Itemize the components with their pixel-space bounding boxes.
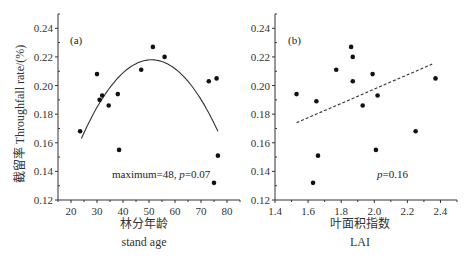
data-point [139,68,144,73]
data-point [151,45,156,50]
x-tick-label: 2.2 [400,205,414,217]
panel-a-fit-curve [81,60,218,139]
y-tick-label: 0.24 [34,22,54,34]
y-tick-label: 0.12 [34,194,53,206]
y-tick-label: 0.16 [34,137,54,149]
panel-a-ylabel: 截留率 Throughfall rate/(%) [12,45,27,184]
data-point [97,98,102,103]
panel-a-xlabel-cn: 林分年龄 [120,217,168,231]
x-tick-label: 1.6 [301,205,315,217]
panel-b-axes: 0.120.140.160.180.200.220.241.41.61.82.0… [251,14,457,217]
x-tick-label: 30 [92,205,104,217]
figure-throughfall-rate: 0.120.140.160.180.200.220.24203040506070… [0,0,472,261]
panel-b-xlabel-en: LAI [350,235,370,249]
panel-b-lai: 0.120.140.160.180.200.220.241.41.61.82.0… [251,14,457,249]
data-point [116,92,121,97]
y-tick-label: 0.20 [34,80,54,92]
panel-a-stand-age: 0.120.140.160.180.200.220.24203040506070… [12,14,240,249]
data-point [100,93,105,98]
y-tick-label: 0.22 [34,51,53,63]
x-tick-label: 60 [170,205,182,217]
panel-a-points [78,45,220,186]
data-point [413,129,418,134]
x-tick-label: 50 [144,205,156,217]
panel-b-annotation: p=0.16 [376,168,408,180]
y-tick-label: 0.20 [251,80,271,92]
x-tick-label: 2.4 [434,205,448,217]
data-point [311,181,316,186]
data-point [162,55,167,60]
data-point [95,72,100,77]
data-point [78,129,83,134]
data-point [349,45,354,50]
y-tick-label: 0.12 [251,194,270,206]
data-point [374,148,379,153]
data-point [350,55,355,60]
data-point [214,76,219,81]
data-point [207,79,212,84]
y-tick-label: 0.18 [251,108,271,120]
data-point [360,103,365,108]
data-point [316,153,321,158]
panel-b-xlabel-cn: 叶面积指数 [330,216,390,231]
y-tick-label: 0.22 [251,51,270,63]
data-point [433,76,438,81]
data-point [334,68,339,73]
x-tick-label: 1.4 [268,205,282,217]
y-tick-label: 0.16 [251,137,271,149]
data-point [375,93,380,98]
data-point [117,148,122,153]
panel-a-axes: 0.120.140.160.180.200.220.24203040506070… [34,14,240,217]
x-tick-label: 70 [196,205,208,217]
panel-a-xlabel-en: stand age [122,235,167,249]
data-point [106,103,111,108]
panel-b-fit-line [297,64,433,123]
y-tick-label: 0.14 [251,165,271,177]
panel-a-label: (a) [70,34,83,47]
data-point [294,92,299,97]
panel-b-label: (b) [288,34,301,47]
data-point [350,79,355,84]
x-tick-label: 40 [118,205,130,217]
y-tick-label: 0.14 [34,165,54,177]
x-tick-label: 2.0 [367,205,381,217]
x-tick-label: 80 [222,205,234,217]
y-tick-label: 0.24 [251,22,271,34]
data-point [370,72,375,77]
panel-a-annotation: maximum=48, p=0.07 [112,168,211,180]
x-tick-label: 20 [66,205,78,217]
y-tick-label: 0.18 [34,108,54,120]
data-point [212,181,217,186]
x-tick-label: 1.8 [334,205,348,217]
data-point [216,153,221,158]
data-point [314,99,319,104]
